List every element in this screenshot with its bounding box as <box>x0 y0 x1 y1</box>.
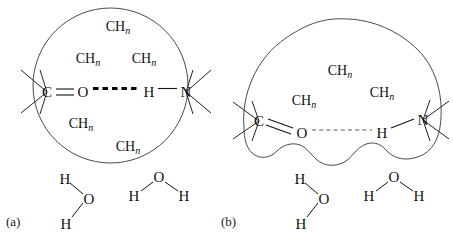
panel-a-water-left-hydrogen: H <box>60 171 71 187</box>
panel-b-water-left: O H H <box>295 171 330 232</box>
panel-b-chn-group: CHn <box>292 93 316 110</box>
figure-container: C O H N CHn CHn CHn CHn CHn O H H O H H … <box>0 0 453 241</box>
panel-a-carbonyl-double-bond <box>56 89 74 95</box>
panel-a-chn-group: CHn <box>106 19 130 36</box>
panel-a-water-right-oxygen: O <box>154 169 165 185</box>
panel-b-water-left-oxygen: O <box>319 191 330 207</box>
hydrogen-bond-diagram: C O H N CHn CHn CHn CHn CHn O H H O H H … <box>0 0 453 241</box>
panel-a-chn-group: CHn <box>132 51 156 68</box>
panel-a: C O H N CHn CHn CHn CHn CHn O H H O H H … <box>6 8 211 232</box>
panel-a-atom-n: N <box>181 84 192 100</box>
panel-b-chn-group: CHn <box>370 85 394 102</box>
panel-a-chn-group: CHn <box>116 139 140 156</box>
panel-a-water-right-hydrogen: H <box>129 188 140 204</box>
panel-b-label: (b) <box>221 214 236 229</box>
panel-a-water-right: O H H <box>129 169 190 204</box>
panel-b-water-left-hydrogen: H <box>295 171 306 187</box>
panel-b-water-right-hydrogen: H <box>364 188 375 204</box>
panel-a-chn-group: CHn <box>69 116 93 133</box>
panel-b-atom-c: C <box>254 113 264 129</box>
panel-a-label: (a) <box>6 214 20 229</box>
panel-a-water-left-oxygen: O <box>84 191 95 207</box>
panel-a-chn-group: CHn <box>76 51 100 68</box>
panel-b-atom-n: N <box>418 112 429 128</box>
panel-b-water-right-hydrogen: H <box>414 188 425 204</box>
panel-b-atom-o: O <box>297 125 308 141</box>
panel-b-chn-group: CHn <box>328 63 352 80</box>
panel-a-atom-o: O <box>78 84 89 100</box>
panel-a-water-right-hydrogen: H <box>179 188 190 204</box>
panel-b-carbonyl-double-bond <box>266 119 293 134</box>
panel-b-amide-bond <box>391 119 414 128</box>
panel-a-water-left: O H H <box>60 171 95 232</box>
panel-b-water-left-hydrogen: H <box>296 216 307 232</box>
panel-a-atom-h: H <box>144 84 155 100</box>
panel-b-atom-h: H <box>377 125 388 141</box>
panel-b-envelope-blob <box>244 19 442 165</box>
panel-b-water-right: O H H <box>364 169 425 204</box>
panel-b-water-right-oxygen: O <box>389 169 400 185</box>
panel-a-water-left-hydrogen: H <box>61 216 72 232</box>
panel-b: C O H N CHn CHn CHn O H H O H H (b) <box>221 19 449 232</box>
panel-a-atom-c: C <box>42 84 52 100</box>
